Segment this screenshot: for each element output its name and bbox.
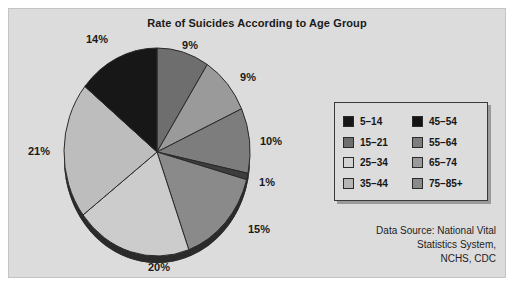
pie-slice-label: 20% [148,261,170,273]
legend-color-swatch [343,137,354,148]
legend-item-label: 45–54 [429,116,457,127]
pie-chart-area: 9%9%10%1%15%20%21%14% [9,9,339,279]
legend-color-swatch [412,178,423,189]
legend-item: 15–21 [343,137,412,148]
pie-slice-side [138,254,141,262]
pie-slice-label: 10% [260,135,282,147]
pie-slice-label: 15% [248,223,270,235]
legend-item-label: 75–85+ [429,178,463,189]
legend-color-swatch [412,157,423,168]
pie-chart-svg: 9%9%10%1%15%20%21%14% [9,9,339,279]
pie-slice-side [144,255,147,262]
legend-item: 75–85+ [412,178,481,189]
legend-item: 35–44 [343,178,412,189]
pie-slice-label: 21% [28,145,50,157]
pie-slice-label: 9% [182,39,198,51]
legend-item-label: 35–44 [360,178,388,189]
data-source-line-3: NCHS, CDC [324,252,496,266]
legend-item: 25–34 [343,157,412,168]
data-source-caption: Data Source: National Vital Statistics S… [324,224,496,266]
pie-slice-label: 1% [259,176,275,188]
legend-item: 55–64 [412,137,481,148]
data-source-line-2: Statistics System, [324,238,496,252]
pie-slice-label: 9% [240,71,256,83]
pie-slice-side [170,254,173,262]
legend-color-swatch [343,116,354,127]
legend-item: 45–54 [412,116,481,127]
legend-color-swatch [343,157,354,168]
legend: 5–1445–5415–2155–6425–3465–7435–4475–85+ [334,102,488,201]
legend-grid: 5–1445–5415–2155–6425–3465–7435–4475–85+ [343,111,481,194]
pie-slice-label: 14% [86,33,108,45]
legend-color-swatch [412,116,423,127]
chart-panel: Rate of Suicides According to Age Group … [8,8,506,278]
legend-item-label: 65–74 [429,157,457,168]
data-source-line-1: Data Source: National Vital [324,224,496,238]
pie-slice-side [189,249,190,256]
pie-slice-side [141,254,144,262]
legend-color-swatch [412,137,423,148]
legend-item: 65–74 [412,157,481,168]
legend-color-swatch [343,178,354,189]
legend-item-label: 5–14 [360,116,382,127]
legend-item-label: 25–34 [360,157,388,168]
legend-item: 5–14 [343,116,412,127]
legend-item-label: 55–64 [429,137,457,148]
legend-item-label: 15–21 [360,137,388,148]
